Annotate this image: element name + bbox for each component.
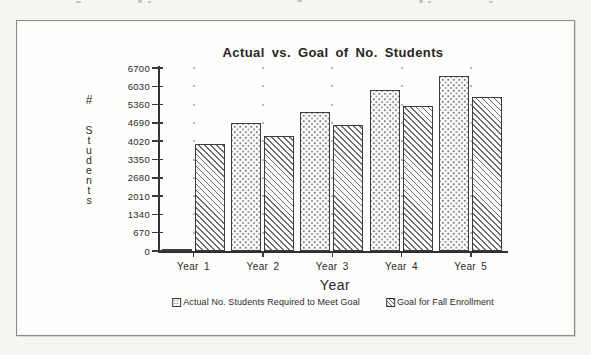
x-category-label: Year 3 bbox=[316, 261, 349, 272]
y-axis-tick bbox=[152, 122, 163, 124]
x-axis-tick bbox=[470, 251, 472, 257]
grid-dot bbox=[331, 67, 333, 69]
y-axis-tick bbox=[152, 140, 163, 142]
scan-artifact bbox=[76, 1, 81, 3]
y-axis-tick bbox=[152, 232, 163, 234]
grid-dot bbox=[331, 122, 333, 124]
grid-dot bbox=[470, 85, 472, 87]
y-axis-tick-label: 6700 bbox=[106, 63, 150, 74]
y-axis-tick bbox=[152, 86, 163, 88]
x-axis-title: Year bbox=[320, 277, 350, 293]
y-axis-tick-label: 4690 bbox=[106, 117, 150, 128]
y-axis-tick-label: 2010 bbox=[106, 191, 150, 202]
y-axis-tick-label: 4020 bbox=[106, 136, 150, 147]
scan-artifact bbox=[489, 1, 493, 3]
y-axis-tick-label: 2680 bbox=[106, 172, 150, 183]
y-axis-title-letters: Students bbox=[79, 125, 99, 205]
bar-hatch-year-3 bbox=[333, 125, 363, 251]
y-axis-tick bbox=[152, 250, 163, 252]
scan-artifact bbox=[428, 1, 431, 3]
scanned-document-page: { "chart_data": { "type": "bar", "title"… bbox=[0, 0, 591, 355]
x-axis-tick bbox=[193, 251, 195, 257]
bar-hatch-year-2 bbox=[264, 136, 294, 251]
y-axis-title-letter: s bbox=[79, 195, 99, 205]
y-axis-tick-label: 1340 bbox=[106, 209, 150, 220]
legend-label: Goal for Fall Enrollment bbox=[397, 297, 494, 307]
grid-dot bbox=[262, 67, 264, 69]
bar-hatch-year-5 bbox=[472, 97, 502, 251]
x-category-label: Year 2 bbox=[247, 261, 280, 272]
scan-artifact bbox=[148, 1, 151, 3]
bar-hatch-year-4 bbox=[403, 106, 433, 251]
plot-area: Year 1Year 2Year 3Year 4Year 5 bbox=[159, 68, 508, 251]
y-axis-tick-label: 6030 bbox=[106, 81, 150, 92]
grid-dot bbox=[193, 67, 195, 69]
x-axis-tick bbox=[401, 251, 403, 257]
bar-dots-year-3 bbox=[300, 112, 330, 251]
figure-frame: Actual vs. Goal of No. Students # Studen… bbox=[16, 20, 575, 336]
legend-label: Actual No. Students Required to Meet Goa… bbox=[183, 297, 360, 307]
x-axis-tick bbox=[332, 251, 334, 257]
grid-dot bbox=[401, 67, 403, 69]
grid-dot bbox=[331, 104, 333, 106]
legend-swatch-hatch-icon bbox=[386, 298, 395, 307]
y-axis-tick bbox=[152, 177, 163, 179]
grid-dot bbox=[262, 122, 264, 124]
legend: Actual No. Students Required to Meet Goa… bbox=[172, 297, 494, 307]
grid-dot bbox=[401, 85, 403, 87]
scan-artifact bbox=[138, 0, 142, 3]
grid-dot bbox=[193, 85, 195, 87]
x-category-label: Year 1 bbox=[177, 261, 210, 272]
bar-dots-year-2 bbox=[231, 123, 261, 251]
legend-entry: Actual No. Students Required to Meet Goa… bbox=[172, 297, 360, 307]
y-axis-title: # Students bbox=[79, 93, 99, 205]
grid-dot bbox=[262, 85, 264, 87]
scan-artifact bbox=[297, 0, 302, 2]
grid-dot bbox=[193, 140, 195, 142]
x-category-label: Year 4 bbox=[385, 261, 418, 272]
x-axis-line bbox=[159, 251, 508, 253]
y-axis-tick bbox=[152, 159, 163, 161]
y-axis-tick bbox=[152, 214, 163, 216]
grid-dot bbox=[262, 104, 264, 106]
grid-dot bbox=[193, 122, 195, 124]
y-axis-tick-label: 0 bbox=[106, 246, 150, 257]
chart-title: Actual vs. Goal of No. Students bbox=[223, 45, 444, 60]
grid-dot bbox=[470, 67, 472, 69]
y-axis-tick-label: 5360 bbox=[106, 99, 150, 110]
y-axis-title-symbol: # bbox=[79, 93, 99, 107]
x-axis-tick bbox=[262, 251, 264, 257]
bar-dots-year-5 bbox=[439, 76, 469, 251]
y-axis-tick bbox=[152, 195, 163, 197]
bar-dots-year-4 bbox=[370, 90, 400, 251]
y-axis-tick-label: 670 bbox=[106, 227, 150, 238]
x-category-label: Year 5 bbox=[454, 261, 487, 272]
grid-dot bbox=[193, 104, 195, 106]
y-axis-tick-label: 3350 bbox=[106, 154, 150, 165]
scan-artifact bbox=[419, 0, 423, 3]
legend-swatch-dots-icon bbox=[172, 298, 181, 307]
legend-entry: Goal for Fall Enrollment bbox=[386, 297, 494, 307]
y-axis-tick bbox=[152, 67, 163, 69]
grid-dot bbox=[331, 85, 333, 87]
y-axis-tick bbox=[152, 104, 163, 106]
bar-hatch-year-1 bbox=[195, 144, 225, 251]
